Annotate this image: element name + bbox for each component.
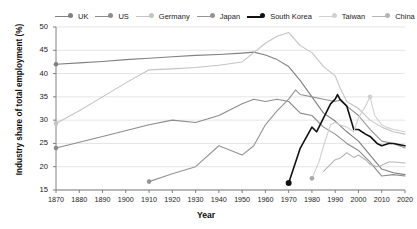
y-tick-label: 40 bbox=[32, 69, 48, 78]
x-tick-label: 1920 bbox=[160, 195, 184, 204]
x-tick-label: 1870 bbox=[44, 195, 68, 204]
x-tick-label: 2010 bbox=[370, 195, 394, 204]
y-tick-label: 50 bbox=[32, 22, 48, 31]
series-marker-south-korea bbox=[286, 180, 292, 186]
series-marker-germany bbox=[54, 121, 59, 126]
x-tick-label: 2000 bbox=[346, 195, 370, 204]
x-tick-label: 1880 bbox=[67, 195, 91, 204]
y-tick-label: 25 bbox=[32, 138, 48, 147]
x-tick-label: 1910 bbox=[137, 195, 161, 204]
x-tick-label: 2020 bbox=[393, 195, 417, 204]
series-marker-uk bbox=[54, 62, 59, 67]
x-tick-label: 1930 bbox=[184, 195, 208, 204]
series-marker-mid-taiwan bbox=[368, 95, 373, 100]
series-line-germany bbox=[56, 33, 405, 135]
x-tick-label: 1980 bbox=[300, 195, 324, 204]
y-tick-label: 15 bbox=[32, 185, 48, 194]
y-tick-label: 45 bbox=[32, 45, 48, 54]
series-line-south-korea bbox=[289, 95, 405, 183]
x-tick-label: 1960 bbox=[253, 195, 277, 204]
y-tick-label: 30 bbox=[32, 115, 48, 124]
x-tick-label: 1940 bbox=[207, 195, 231, 204]
y-tick-label: 20 bbox=[32, 162, 48, 171]
x-tick-label: 1990 bbox=[323, 195, 347, 204]
y-tick-label: 35 bbox=[32, 92, 48, 101]
x-tick-label: 1890 bbox=[91, 195, 115, 204]
x-tick-label: 1950 bbox=[230, 195, 254, 204]
series-marker-japan bbox=[147, 179, 152, 184]
x-tick-label: 1970 bbox=[277, 195, 301, 204]
series-marker-taiwan bbox=[310, 176, 315, 181]
series-marker-us bbox=[54, 146, 59, 151]
x-tick-label: 1900 bbox=[114, 195, 138, 204]
